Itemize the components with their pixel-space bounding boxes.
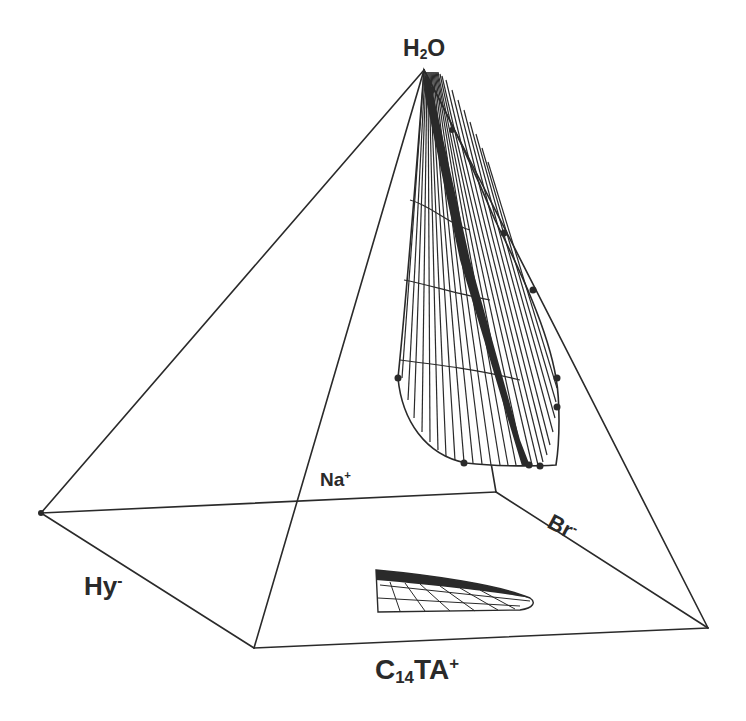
label-na: Na+ — [320, 470, 351, 489]
surface-region — [395, 70, 561, 470]
pyramid-edges — [41, 70, 708, 648]
base-projection — [376, 570, 533, 612]
pyramid-diagram — [0, 0, 746, 721]
label-hy: Hy- — [84, 573, 122, 599]
label-c14ta: C14TA+ — [375, 656, 459, 687]
label-h2o: H2O — [403, 37, 445, 62]
vertex-dot — [38, 510, 44, 516]
